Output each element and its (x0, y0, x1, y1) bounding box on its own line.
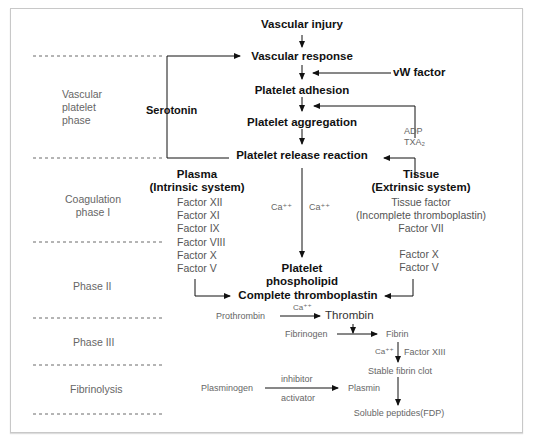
factor-item: Factor XI (177, 209, 225, 222)
factor-item: Factor XII (177, 196, 225, 209)
txa2-label: TXA₂ (404, 137, 425, 148)
complete-thromboplastin-label: Complete thromboplastin (238, 289, 377, 301)
phospholipid-line-2: phospholipid (266, 275, 338, 287)
intrinsic-subtitle: (Intrinsic system) (149, 181, 244, 193)
plasmin-label: Plasmin (348, 383, 380, 393)
inhibitor-label: inhibitor (281, 374, 313, 384)
extrinsic-title: Tissue (403, 168, 439, 180)
platelet-adhesion-label: Platelet adhesion (255, 84, 350, 96)
phase-label-line: phase I (60, 206, 126, 219)
tissue-factor-label: Tissue factor (391, 196, 451, 208)
phase-label-line: platelet (62, 101, 102, 114)
phase-label-vascular-platelet: Vascular platelet phase (62, 88, 102, 127)
fibrin-label: Fibrin (386, 329, 409, 339)
prothrombin-label: Prothrombin (216, 311, 265, 321)
activator-label: activator (281, 393, 315, 403)
adp-txa2-label: ADP TXA₂ (404, 126, 425, 148)
vascular-injury-label: Vascular injury (261, 18, 343, 30)
vw-factor-label: vW factor (393, 66, 445, 78)
factor-item: Factor X (177, 249, 225, 262)
adp-label: ADP (404, 126, 425, 137)
incomplete-thromboplastin-label: (Incomplete thromboplastin) (356, 209, 486, 221)
plasminogen-label: Plasminogen (201, 383, 253, 393)
factor-item: Factor IX (177, 222, 225, 235)
diagram-connectors (0, 0, 533, 443)
fibrinogen-label: Fibrinogen (285, 329, 328, 339)
phase-label-phase-3: Phase III (73, 336, 114, 349)
extrinsic-subtitle: (Extrinsic system) (371, 181, 470, 193)
serotonin-label: Serotonin (146, 104, 197, 116)
platelet-aggregation-label: Platelet aggregation (247, 116, 357, 128)
factor-vii-label: Factor VII (398, 222, 444, 234)
phase-label-line: Coagulation (60, 193, 126, 206)
factor-xiii-label: Factor XIII (404, 347, 446, 357)
ca-right-label: Ca⁺⁺ (309, 202, 330, 212)
factor-v-label: Factor V (399, 261, 439, 273)
phase-label-line: Vascular (62, 88, 102, 101)
thrombin-label: Thrombin (325, 309, 374, 321)
phospholipid-line-1: Platelet (282, 262, 323, 274)
stable-fibrin-clot-label: Stable fibrin clot (368, 366, 432, 376)
ca-thrombin-label: Ca⁺⁺ (293, 303, 312, 312)
ca-fibrin-label: Ca⁺⁺ (375, 347, 394, 356)
factor-x-label: Factor X (399, 248, 439, 260)
intrinsic-factor-list: Factor XII Factor XI Factor IX Factor VI… (177, 196, 225, 275)
factor-item: Factor VIII (177, 236, 225, 249)
factor-item: Factor V (177, 262, 225, 275)
fdp-label: Soluble peptides(FDP) (354, 408, 445, 418)
phase-label-fibrinolysis: Fibrinolysis (70, 383, 123, 396)
vascular-response-label: Vascular response (251, 50, 353, 62)
intrinsic-title: Plasma (177, 168, 217, 180)
phase-label-coagulation-1: Coagulation phase I (60, 193, 126, 219)
platelet-release-label: Platelet release reaction (236, 149, 368, 161)
phase-label-phase-2: Phase II (73, 280, 112, 293)
ca-left-label: Ca⁺⁺ (271, 202, 292, 212)
phase-label-line: phase (62, 114, 102, 127)
